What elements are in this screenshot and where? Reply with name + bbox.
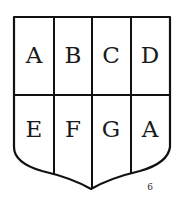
cell-label-1: A <box>25 42 43 68</box>
cell-label-5: E <box>26 116 43 142</box>
cell-label-4: D <box>141 42 159 68</box>
cell-label-8: A <box>141 116 159 142</box>
page-number: 6 <box>147 182 153 192</box>
cell-label-3: C <box>102 42 120 68</box>
shield-diagram: A B C D E F G A 6 <box>0 0 182 206</box>
cell-label-7: G <box>102 116 120 142</box>
cell-label-6: F <box>65 116 81 142</box>
cell-label-2: B <box>65 42 82 68</box>
